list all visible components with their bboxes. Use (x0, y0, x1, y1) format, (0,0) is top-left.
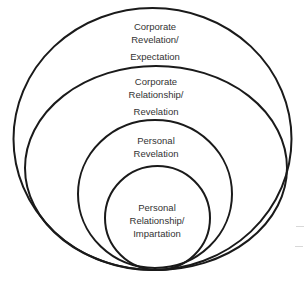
label-personal-relationship-impartation: Personal Relationship/ Impartation (130, 201, 185, 240)
label-line: Impartation (130, 227, 185, 240)
label-line: Expectation (130, 50, 180, 63)
label-line: Personal (134, 134, 179, 147)
label-line: Revelation (134, 147, 179, 160)
label-line: Corporate (129, 75, 184, 88)
label-line: Relationship/ (129, 88, 184, 101)
label-line: Personal (130, 201, 185, 214)
scan-artifact-mark (295, 246, 303, 247)
label-line: Relationship/ (130, 214, 185, 227)
nested-circles-diagram: Corporate Revelation/ Expectation Corpor… (0, 0, 306, 282)
label-corporate-revelation-expectation: Corporate Revelation/ Expectation (130, 20, 180, 63)
label-corporate-relationship-revelation: Corporate Relationship/ Revelation (129, 75, 184, 118)
scan-artifact-mark (296, 226, 304, 227)
label-line: Corporate (130, 20, 180, 33)
label-line: Revelation/ (130, 33, 180, 46)
label-line: Revelation (129, 105, 184, 118)
label-personal-revelation: Personal Revelation (134, 134, 179, 160)
